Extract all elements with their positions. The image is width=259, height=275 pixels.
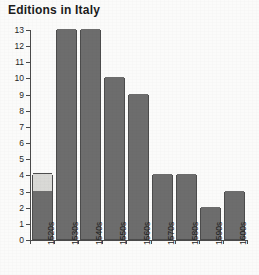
bar-segment-lower: [105, 77, 124, 239]
y-axis-tick-label: 0: [19, 235, 24, 245]
y-axis-tick: [26, 127, 30, 128]
y-axis-tick-label: 10: [15, 73, 24, 83]
y-axis-tick: [26, 224, 30, 225]
x-axis-tick-label: 1560s: [142, 222, 152, 245]
y-axis-tick: [26, 30, 30, 31]
y-axis-tick: [26, 95, 30, 96]
x-axis-tick-label: 1590s: [214, 222, 224, 245]
bar-segment-lower: [57, 29, 76, 239]
y-axis-tick: [26, 62, 30, 63]
y-axis-tick: [26, 192, 30, 193]
y-axis-tick: [26, 175, 30, 176]
y-axis-tick: [26, 208, 30, 209]
bar-segment-lower: [81, 29, 100, 239]
y-axis-tick-label: 12: [15, 41, 24, 51]
y-axis-tick-label: 9: [19, 90, 24, 100]
y-axis-tick: [26, 159, 30, 160]
x-axis-tick-label: 1550s: [118, 222, 128, 245]
x-axis-tick: [30, 240, 31, 244]
x-axis-tick-label: 1540s: [94, 222, 104, 245]
y-axis-tick-label: 1: [19, 219, 24, 229]
y-axis-tick: [26, 111, 30, 112]
x-axis-tick-label: 1530s: [70, 222, 80, 245]
chart-title: Editions in Italy: [8, 3, 100, 17]
y-axis-tick-label: 11: [15, 57, 24, 67]
bar: [128, 95, 149, 240]
bar-segment-upper: [33, 173, 52, 190]
bar: [80, 30, 101, 240]
y-axis-tick: [26, 143, 30, 144]
bar: [104, 78, 125, 240]
plot-area: 012345678910111213: [30, 30, 247, 240]
bar-chart: Editions in Italy 012345678910111213 152…: [0, 0, 259, 275]
y-axis-tick-label: 2: [19, 203, 24, 213]
bar: [56, 30, 77, 240]
x-axis-tick-label: 1580s: [190, 222, 200, 245]
y-axis-tick-label: 5: [19, 154, 24, 164]
x-axis-tick-label: 1570s: [166, 222, 176, 245]
x-axis-tick-label: 1520s: [46, 222, 56, 245]
y-axis-tick-label: 3: [19, 187, 24, 197]
y-axis-tick: [26, 78, 30, 79]
y-axis-tick: [26, 46, 30, 47]
y-axis-tick-label: 13: [15, 25, 24, 35]
y-axis-tick-label: 4: [19, 170, 24, 180]
y-axis-tick-label: 7: [19, 122, 24, 132]
y-axis-tick-label: 8: [19, 106, 24, 116]
bar-segment-lower: [129, 94, 148, 239]
x-axis-tick-label: 1600s: [238, 222, 248, 245]
y-axis-tick-label: 6: [19, 138, 24, 148]
